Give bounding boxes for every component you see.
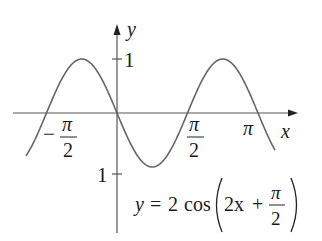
svg-text:cos: cos <box>184 193 211 215</box>
graph: y x 1 1 − π 2 π 2 π y = 2 cos 2x + π 2 <box>0 0 322 241</box>
svg-text:2x: 2x <box>224 193 244 215</box>
x-axis-arrow-icon <box>288 110 298 117</box>
x-tick-neg-num: π <box>62 113 73 135</box>
x-axis-label: x <box>280 120 290 142</box>
x-tick-pos-den: 2 <box>189 139 199 161</box>
x-tick-pos-num: π <box>189 113 200 135</box>
y-tick-label-upper: 1 <box>124 48 135 72</box>
x-tick-pi: π <box>243 117 254 139</box>
svg-text:+: + <box>252 193 263 215</box>
svg-text:2: 2 <box>271 208 281 229</box>
svg-text:y: y <box>133 193 144 216</box>
y-axis-label: y <box>125 18 136 41</box>
svg-text:=: = <box>150 193 161 215</box>
svg-text:2: 2 <box>168 193 178 215</box>
y-tick-label-lower: 1 <box>97 163 108 187</box>
y-axis-arrow-icon <box>114 24 121 35</box>
equation: y = 2 cos 2x + π 2 <box>133 178 297 232</box>
x-tick-neg-den: 2 <box>63 139 73 161</box>
x-tick-neg-sign: − <box>43 122 55 146</box>
svg-text:π: π <box>271 182 281 203</box>
